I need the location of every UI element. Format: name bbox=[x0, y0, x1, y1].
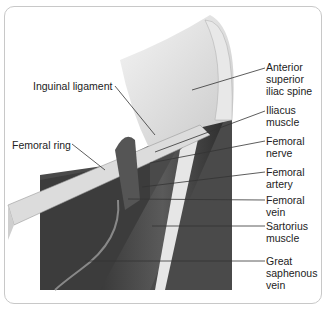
label-iliacus-muscle: Iliacus muscle bbox=[266, 104, 299, 128]
label-great-saphenous-vein: Great saphenous vein bbox=[266, 255, 317, 291]
label-inguinal-ligament: Inguinal ligament bbox=[33, 80, 112, 92]
label-femoral-artery: Femoral artery bbox=[266, 166, 305, 190]
label-femoral-nerve: Femoral nerve bbox=[266, 135, 305, 159]
label-anterior-superior-iliac-spine: Anterior superior iliac spine bbox=[266, 61, 312, 97]
label-femoral-ring: Femoral ring bbox=[12, 139, 71, 151]
label-sartorius-muscle: Sartorius muscle bbox=[266, 220, 308, 244]
label-femoral-vein: Femoral vein bbox=[266, 194, 305, 218]
